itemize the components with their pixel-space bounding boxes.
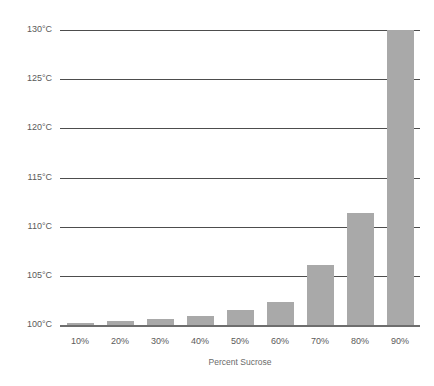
x-axis-title: Percent Sucrose (60, 357, 420, 367)
x-axis-tick-label: 20% (100, 336, 140, 347)
bars-layer (60, 30, 420, 325)
bar (347, 213, 374, 325)
y-axis-tick-label: 125°C (4, 74, 52, 83)
x-axis-tick-label: 90% (380, 336, 420, 347)
y-axis-tick-label: 100°C (4, 320, 52, 329)
sucrose-boiling-point-chart: 100°C105°C110°C115°C120°C125°C130°C 10%2… (0, 0, 434, 386)
x-axis-tick-label: 30% (140, 336, 180, 347)
bar (227, 310, 254, 325)
x-axis-tick-label: 60% (260, 336, 300, 347)
bar (187, 316, 214, 325)
y-axis-tick-label: 105°C (4, 271, 52, 280)
bar (387, 30, 414, 325)
x-axis-tick-label: 10% (60, 336, 100, 347)
x-axis-tick-label: 40% (180, 336, 220, 347)
y-axis-tick-label: 120°C (4, 123, 52, 132)
x-axis-line (60, 325, 420, 327)
bar (307, 265, 334, 325)
x-axis-tick-label: 50% (220, 336, 260, 347)
bar (267, 302, 294, 325)
x-axis-tick-label: 80% (340, 336, 380, 347)
y-axis-tick-label: 115°C (4, 173, 52, 182)
x-axis-tick-label: 70% (300, 336, 340, 347)
y-axis-tick-label: 130°C (4, 25, 52, 34)
y-axis-tick-label: 110°C (4, 222, 52, 231)
